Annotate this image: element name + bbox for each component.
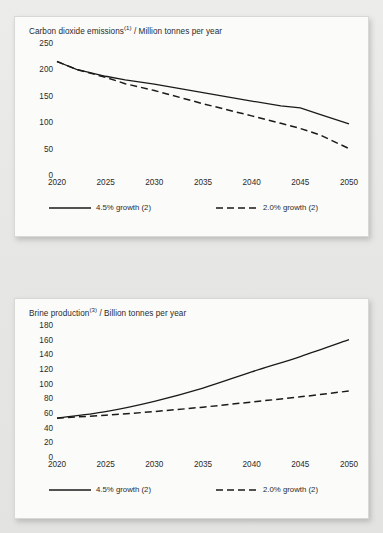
series-line-dashed (57, 391, 349, 418)
chart-title-footnote: (1) (124, 24, 132, 31)
x-tick: 2030 (145, 460, 163, 469)
x-tick: 2050 (340, 460, 358, 469)
legend-label: 2.0% growth (2) (263, 203, 318, 212)
x-tick: 2040 (243, 178, 261, 187)
y-tick: 160 (39, 335, 53, 344)
y-tick: 80 (44, 394, 53, 403)
y-tick: 100 (39, 379, 53, 388)
legend-item-solid: 4.5% growth (2) (49, 203, 151, 212)
y-tick: 250 (39, 39, 53, 48)
chart-title-main: Carbon dioxide emissions (29, 27, 124, 36)
series-line-solid (57, 340, 349, 418)
x-tick: 2045 (291, 178, 309, 187)
x-tick: 2040 (243, 460, 261, 469)
legend-solid-line-icon (49, 486, 91, 494)
chart-title-main: Brine production (29, 309, 89, 318)
y-tick: 50 (44, 144, 53, 153)
x-tick: 2030 (145, 178, 163, 187)
chart-title-unit: / Billion tonnes per year (99, 309, 186, 318)
y-tick: 150 (39, 91, 53, 100)
y-tick: 100 (39, 118, 53, 127)
x-tick: 2020 (48, 460, 66, 469)
legend-item-dashed: 2.0% growth (2) (216, 485, 318, 494)
y-tick: 180 (39, 321, 53, 330)
legend-dashed-line-icon (216, 486, 258, 494)
legend-brine: 4.5% growth (2) 2.0% growth (2) (41, 485, 361, 501)
plot-area-co2 (57, 43, 349, 175)
legend-label: 2.0% growth (2) (263, 485, 318, 494)
legend-label: 4.5% growth (2) (96, 485, 151, 494)
x-tick: 2025 (97, 460, 115, 469)
x-axis-brine: 2020 2025 2030 2035 2040 2045 2050 (57, 460, 349, 474)
plot-svg-brine (57, 325, 349, 457)
y-tick: 40 (44, 423, 53, 432)
x-tick: 2025 (97, 178, 115, 187)
chart-panel-brine-production: Brine production(3) / Billion tonnes per… (14, 298, 369, 519)
legend-dashed-line-icon (216, 204, 258, 212)
chart-title-brine: Brine production(3) / Billion tonnes per… (29, 309, 186, 318)
y-tick: 120 (39, 364, 53, 373)
y-tick: 140 (39, 350, 53, 359)
y-axis-brine: 180 160 140 120 100 80 60 40 20 0 (15, 325, 53, 457)
chart-title-unit: / Million tonnes per year (134, 27, 222, 36)
legend-item-solid: 4.5% growth (2) (49, 485, 151, 494)
chart-panel-co2-emissions: Carbon dioxide emissions(1) / Million to… (14, 16, 369, 237)
legend-co2: 4.5% growth (2) 2.0% growth (2) (41, 203, 361, 219)
plot-area-brine (57, 325, 349, 457)
chart-title-footnote: (3) (89, 306, 97, 313)
y-axis-co2: 250 200 150 100 50 0 (15, 43, 53, 175)
legend-solid-line-icon (49, 204, 91, 212)
legend-item-dashed: 2.0% growth (2) (216, 203, 318, 212)
y-tick: 60 (44, 409, 53, 418)
chart-title-co2: Carbon dioxide emissions(1) / Million to… (29, 27, 222, 36)
y-tick: 200 (39, 65, 53, 74)
y-tick: 20 (44, 438, 53, 447)
legend-label: 4.5% growth (2) (96, 203, 151, 212)
plot-svg-co2 (57, 43, 349, 175)
x-tick: 2045 (291, 460, 309, 469)
x-tick: 2050 (340, 178, 358, 187)
x-axis-co2: 2020 2025 2030 2035 2040 2045 2050 (57, 178, 349, 192)
series-line-solid (57, 61, 349, 123)
x-tick: 2035 (194, 178, 212, 187)
x-tick: 2020 (48, 178, 66, 187)
x-tick: 2035 (194, 460, 212, 469)
page-background: Carbon dioxide emissions(1) / Million to… (0, 0, 383, 533)
